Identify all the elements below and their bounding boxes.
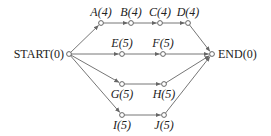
edge-j-end — [165, 57, 210, 114]
label-e: E(5) — [110, 36, 132, 50]
node-c — [158, 21, 163, 26]
node-j — [162, 113, 167, 118]
edge-start-g — [71, 55, 119, 82]
label-j: J(5) — [154, 118, 173, 132]
node-d — [186, 21, 191, 26]
label-d: D(4) — [176, 5, 200, 19]
node-start — [67, 52, 72, 57]
label-h: H(5) — [152, 87, 176, 101]
node-g — [120, 82, 125, 87]
node-e — [120, 52, 125, 57]
label-f: F(5) — [151, 36, 173, 50]
label-start: START(0) — [14, 47, 64, 61]
label-g: G(5) — [111, 87, 134, 101]
edge-h-end — [166, 56, 209, 83]
label-a: A(4) — [89, 5, 111, 19]
node-a — [99, 21, 104, 26]
label-end: END(0) — [218, 47, 257, 61]
edges — [71, 23, 210, 115]
node-b — [129, 21, 134, 26]
edge-start-a — [71, 25, 99, 52]
node-i — [120, 113, 125, 118]
network-diagram: START(0) END(0) A(4) B(4) C(4) D(4) E(5)… — [0, 0, 271, 136]
edge-d-end — [189, 25, 210, 52]
node-f — [161, 52, 166, 57]
node-h — [162, 82, 167, 87]
label-c: C(4) — [149, 5, 171, 19]
label-i: I(5) — [112, 118, 131, 132]
node-end — [210, 52, 215, 57]
label-b: B(4) — [120, 5, 141, 19]
edge-start-i — [71, 56, 120, 113]
